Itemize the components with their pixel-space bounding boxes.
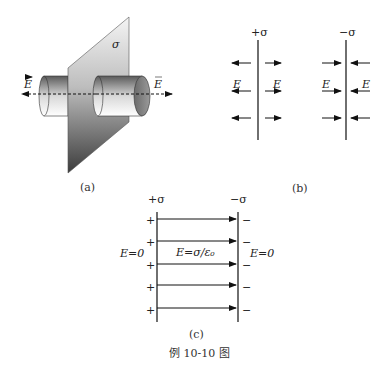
panel-a-label: (a): [80, 181, 95, 194]
svg-text:E: E: [153, 78, 162, 91]
panel-b: +σ E E −σ E E (b): [232, 26, 370, 195]
negative-plate-b: −σ E E: [321, 26, 370, 140]
svg-text:−: −: [242, 214, 251, 227]
outside-left-field: E=0: [119, 247, 144, 260]
svg-text:E: E: [23, 78, 32, 91]
left-plate-charge: +σ: [148, 193, 165, 206]
right-plate-charge: −σ: [230, 193, 247, 206]
svg-text:+: +: [146, 281, 155, 294]
svg-text:−σ: −σ: [339, 26, 356, 39]
gaussian-cylinder-left: [39, 76, 68, 116]
outside-right-field: E=0: [249, 247, 274, 260]
svg-text:+σ: +σ: [251, 26, 268, 39]
svg-text:+: +: [146, 304, 155, 317]
svg-text:−: −: [242, 281, 251, 294]
svg-text:+: +: [146, 259, 155, 272]
sigma-label: σ: [112, 38, 120, 51]
panel-a: σ E E (a): [22, 17, 172, 194]
svg-text:−: −: [242, 259, 251, 272]
plus-signs: + + + + +: [146, 214, 155, 317]
e-vector-label-left: E: [23, 77, 32, 91]
svg-text:E: E: [232, 78, 241, 91]
positive-plate-b: +σ E E: [232, 26, 281, 140]
minus-signs: − − − − −: [242, 214, 251, 317]
inside-field: E=σ/ε₀: [175, 246, 215, 259]
svg-text:E: E: [361, 78, 370, 91]
svg-text:E: E: [272, 78, 281, 91]
svg-text:−: −: [242, 304, 251, 317]
svg-text:+: +: [146, 236, 155, 249]
panel-c-label: (c): [189, 328, 204, 341]
e-vector-label-right: E: [153, 77, 162, 91]
figure-canvas: σ E E (a) +σ E E −σ: [0, 0, 384, 373]
panel-b-label: (b): [292, 182, 308, 195]
svg-text:+: +: [146, 214, 155, 227]
gaussian-cylinder-right: [93, 76, 150, 116]
figure-caption: 例 10-10 图: [169, 346, 230, 360]
panel-c: +σ −σ + + + + + − − − − − E=0 E=σ/ε₀ E=0: [119, 193, 274, 341]
svg-text:E: E: [321, 78, 330, 91]
field-arrows-c: [157, 219, 236, 308]
